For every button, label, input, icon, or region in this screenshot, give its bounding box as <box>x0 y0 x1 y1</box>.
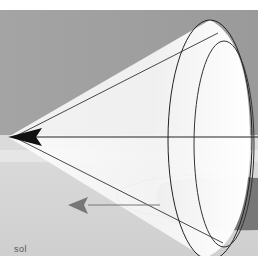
sun-label: sol <box>14 244 27 254</box>
right-margin <box>258 0 268 266</box>
bottom-margin <box>0 256 268 266</box>
light-cone-diagram <box>0 0 268 266</box>
